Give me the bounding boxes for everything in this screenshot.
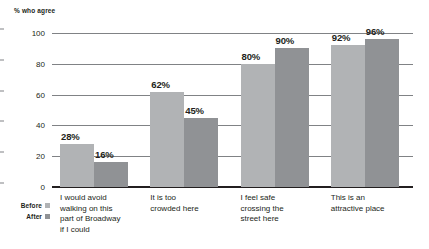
category-label-line: I would avoid [60,193,146,204]
category-label-line: It is too [150,193,236,204]
bar-before-group-2 [150,92,184,187]
category-label-line: walking on this [60,204,146,215]
chart-legend: Before After [0,200,52,222]
bar-before-group-1 [60,144,94,187]
category-label-line: I feel safe [241,193,327,204]
y-tick-label-0: 0 [5,183,45,192]
bar-after-group-4 [365,39,399,187]
bar-before-group-3 [241,64,275,187]
bar-chart: % who agree 28%16%62%45%80%90%92%96% 020… [0,0,429,249]
y-tick-label-20: 20 [5,152,45,161]
y-tick-dash-60 [0,90,4,91]
bar-value-label-after-group-1: 16% [95,149,114,160]
chart-axis-title: % who agree [14,7,55,14]
bar-before-group-4 [331,45,365,187]
legend-swatch-after-icon [45,214,50,219]
bar-group-1: 28%16% [60,33,128,187]
plot-area: 28%16%62%45%80%90%92%96% [52,33,413,187]
legend-swatch-before-icon [45,203,50,208]
y-tick-label-80: 80 [5,59,45,68]
bar-value-label-before-group-2: 62% [151,79,170,90]
legend-label-before: Before [21,202,42,209]
bar-value-label-after-group-4: 96% [366,26,385,37]
bar-value-label-after-group-2: 45% [185,105,204,116]
category-label-1: I would avoidwalking on thispart of Broa… [60,193,146,235]
category-label-2: It is toocrowded here [150,193,236,214]
category-label-line: This is an [331,193,417,204]
category-label-line: if I could [60,225,146,236]
y-tick-dash-20 [0,152,4,153]
category-label-4: This is anattractive place [331,193,417,214]
y-tick-label-40: 40 [5,121,45,130]
category-label-line: attractive place [331,204,417,215]
bar-after-group-2 [184,118,218,187]
y-tick-dash-100 [0,29,4,30]
bars-group: 28%16%62%45%80%90%92%96% [52,33,413,187]
y-tick-dash-80 [0,59,4,60]
y-tick-dash-40 [0,121,4,122]
category-label-line: crossing the [241,204,327,215]
bar-value-label-before-group-1: 28% [61,131,80,142]
legend-label-after: After [26,213,42,220]
bar-after-group-1 [94,162,128,187]
y-tick-label-100: 100 [5,29,45,38]
category-label-3: I feel safecrossing thestreet here [241,193,327,225]
legend-item-before: Before [0,200,52,211]
y-tick-label-60: 60 [5,90,45,99]
bar-group-2: 62%45% [150,33,218,187]
category-label-line: street here [241,214,327,225]
bar-value-label-after-group-3: 90% [276,35,295,46]
bar-value-label-before-group-3: 80% [242,51,261,62]
legend-item-after: After [0,211,52,222]
bar-group-4: 92%96% [331,33,399,187]
bar-group-3: 80%90% [241,33,309,187]
category-label-line: part of Broadway [60,214,146,225]
y-tick-dash-0 [0,183,4,184]
bar-after-group-3 [275,48,309,187]
category-label-line: crowded here [150,204,236,215]
bar-value-label-before-group-4: 92% [332,32,351,43]
